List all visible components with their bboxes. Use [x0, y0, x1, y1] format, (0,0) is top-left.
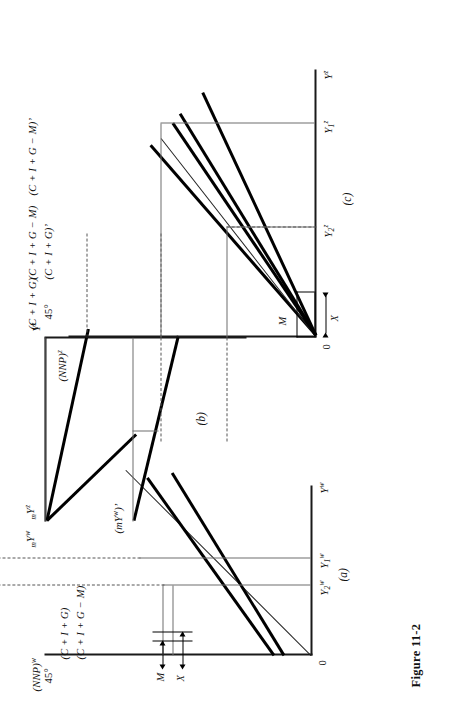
panel-a-label-45: 45°	[42, 668, 53, 683]
panel-b-name: (b)	[194, 412, 206, 425]
panel-a-label-cig: (C + I + G)	[58, 607, 69, 659]
panel-c-origin-label: 0	[320, 344, 331, 349]
panel-a-marker-m: M	[154, 672, 165, 681]
panel-c-tick-y1: Y1z	[320, 120, 335, 133]
panel-c-label-cigm-prime: (C + I + G − M)’	[26, 117, 37, 195]
panel-b-guide-lower	[132, 337, 133, 521]
panel-b-curve-label-mYw: mYw	[22, 530, 37, 547]
panel-c-marker-x: X	[328, 314, 339, 321]
panel-c-guide-y1	[160, 122, 314, 123]
panel-b-curve-label-mYw-prime: (mYw)’	[110, 503, 123, 533]
panel-a-gap-markers: M X	[148, 625, 194, 685]
panel-c-gap-markers: M X	[280, 273, 342, 339]
panel-b-guide-upper	[44, 337, 45, 521]
panel-c-y-axis	[68, 335, 316, 337]
panel-c-label-cig-prime: (C + I + G)’	[42, 223, 53, 279]
panel-a-tick-y1: Y1w	[316, 553, 331, 568]
panel-b-curve-mYw-prime	[132, 335, 179, 520]
panel-a-dash-y1	[0, 557, 140, 558]
panel-c-name: (c)	[340, 192, 352, 205]
panel-a-marker-x: X	[174, 674, 185, 681]
panel-a-name: (a)	[336, 568, 348, 581]
panel-b: mYw mYz (mYw)’ Yz (b)	[44, 311, 284, 521]
panel-a-tick-y2: Y2w	[316, 580, 331, 595]
panel-a-origin-label: 0	[316, 660, 327, 665]
panel-c-x-axis-label: Yz	[320, 70, 333, 79]
panel-c-label-cig: (C + I + G)	[26, 277, 37, 329]
panel-a-y-axis-label: (NNP)w	[28, 657, 41, 691]
panel-b-curve-label-mYz: mYz	[22, 504, 37, 519]
panel-c-tick-y2: Y2z	[320, 224, 335, 237]
panel-c-guide-h1	[226, 227, 227, 337]
panel-c-y-axis-label: (NNP)z	[54, 349, 67, 381]
panel-c-marker-m: M	[276, 316, 287, 325]
panel-c-dash-from-b-2	[226, 337, 227, 441]
panel-a-x-axis-label: Yw	[316, 482, 329, 493]
figure-canvas: (NNP)w Yw 0 Y2w Y1w 45° (C + I + G) (C +…	[0, 0, 457, 717]
panel-a-x-axis	[310, 485, 312, 655]
panel-a-guide-y2	[162, 584, 310, 585]
panel-c: (NNP)z Yz 0 Y2z Y1z (C + I + G) 45° (C +…	[44, 37, 374, 337]
panel-a-label-cigm: (C + I + G − M)	[74, 585, 85, 659]
panel-a-guide-y1	[139, 557, 310, 558]
panel-c-label-cigm: (C + I + G − M)	[26, 205, 37, 279]
panel-c-label-45: 45°	[42, 304, 53, 319]
panel-c-guide-h2	[160, 123, 161, 337]
panel-c-dash-y2	[226, 226, 316, 227]
panel-b-guide-v1	[132, 430, 158, 431]
figure-caption: Figure 11-2	[408, 623, 423, 687]
panel-c-dash-from-b-1	[160, 337, 161, 441]
